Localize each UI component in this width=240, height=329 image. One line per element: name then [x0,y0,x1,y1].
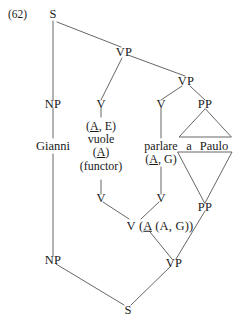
annotation-vuole-line3: (A) [80,146,123,159]
edge-vp-vp [128,55,185,76]
syntax-tree-figure: (62) S VP VP NP V V PP Gianni (A, E) vuo… [0,0,240,329]
node-pp-lower: PP [198,201,212,214]
edge-np-bottom-s [56,264,124,305]
pp-lower-triangle [178,152,232,203]
example-number: (62) [8,8,27,20]
node-pp-upper: PP [198,98,212,111]
node-v-composed: V (A (A, G)) [127,220,194,233]
word-gianni: Gianni [36,139,70,154]
edge-s-vp [57,22,121,47]
word-a: a [186,139,192,154]
annotation-vuole: (A, E) vuole (A) (functor) [80,120,123,173]
edge-v-vuole-composed [103,202,129,219]
annotation-parlare-line2: (A, G) [144,153,177,166]
edge-vp-v-vuole [101,58,122,100]
node-vp-upper: VP [116,46,132,59]
annotation-parlare: parlare (A, G) [144,140,177,166]
node-np-upper: NP [45,98,61,111]
edge-vp-bottom-s [131,266,171,305]
node-np-lower: NP [45,254,61,267]
node-top-s: S [49,8,56,21]
pp-upper-triangle [179,109,231,137]
annotation-vuole-line4: (functor) [80,160,123,173]
node-vp-bottom: VP [166,257,182,270]
node-v-vuole-lower: V [96,192,105,205]
node-v-parlare-lower: V [156,192,165,205]
node-v-vuole-upper: V [96,98,105,111]
node-vp-lower: VP [178,75,194,88]
node-bottom-s: S [124,304,131,317]
node-v-parlare-upper: V [156,98,165,111]
word-paulo: Paulo [200,139,228,154]
